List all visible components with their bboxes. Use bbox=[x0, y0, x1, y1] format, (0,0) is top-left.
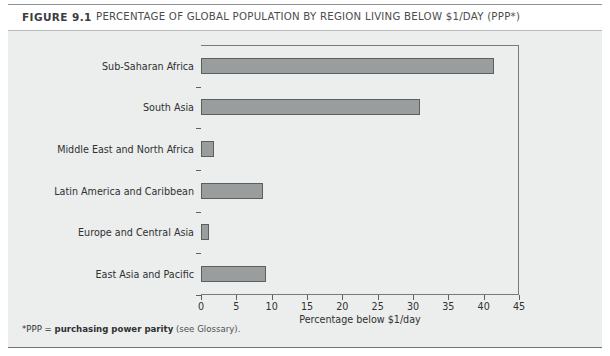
x-axis-tick bbox=[236, 295, 237, 300]
y-axis-category-label: South Asia bbox=[143, 102, 194, 113]
x-axis-tick-label: 20 bbox=[336, 301, 348, 312]
x-axis-tick bbox=[519, 295, 520, 300]
x-axis-tick bbox=[201, 295, 202, 300]
x-axis-tick-label: 30 bbox=[407, 301, 419, 312]
chart-bar bbox=[201, 183, 263, 199]
footnote-prefix: *PPP = bbox=[22, 324, 55, 334]
chart-bar bbox=[201, 141, 214, 157]
y-axis-category-label: East Asia and Pacific bbox=[96, 269, 195, 280]
footnote-suffix: (see Glossary). bbox=[173, 324, 240, 334]
x-axis-tick bbox=[484, 295, 485, 300]
x-axis-tick-label: 5 bbox=[233, 301, 239, 312]
chart-bar bbox=[201, 266, 266, 282]
x-axis-tick-label: 0 bbox=[198, 301, 204, 312]
chart-bar bbox=[201, 224, 209, 240]
y-axis-category-label: Sub-Saharan Africa bbox=[102, 60, 194, 71]
footnote-bold-term: purchasing power parity bbox=[55, 324, 174, 334]
x-axis-tick-label: 10 bbox=[266, 301, 278, 312]
chart-bar bbox=[201, 99, 420, 115]
y-axis-category-label: Europe and Central Asia bbox=[78, 227, 194, 238]
x-axis-tick-label: 45 bbox=[513, 301, 525, 312]
bar-row: Sub-Saharan Africa bbox=[201, 45, 519, 87]
chart-bar bbox=[201, 58, 494, 74]
x-axis-tick-label: 40 bbox=[478, 301, 490, 312]
x-axis-tick bbox=[307, 295, 308, 300]
x-axis-tick-label: 35 bbox=[442, 301, 454, 312]
figure-container: FIGURE 9.1 PERCENTAGE OF GLOBAL POPULATI… bbox=[8, 4, 602, 348]
bar-row: East Asia and Pacific bbox=[201, 253, 519, 295]
x-axis-tick-label: 25 bbox=[372, 301, 384, 312]
x-axis-tick bbox=[448, 295, 449, 300]
x-axis-tick bbox=[378, 295, 379, 300]
figure-title-bar: FIGURE 9.1 PERCENTAGE OF GLOBAL POPULATI… bbox=[8, 5, 602, 31]
x-axis-tick bbox=[413, 295, 414, 300]
y-axis-category-label: Middle East and North Africa bbox=[57, 144, 194, 155]
x-axis-tick bbox=[272, 295, 273, 300]
x-axis-tick-label: 15 bbox=[301, 301, 313, 312]
bar-row: Europe and Central Asia bbox=[201, 212, 519, 254]
x-axis-tick bbox=[342, 295, 343, 300]
bar-row: Middle East and North Africa bbox=[201, 128, 519, 170]
figure-footnote: *PPP = purchasing power parity (see Glos… bbox=[22, 324, 240, 334]
figure-number: FIGURE 9.1 bbox=[22, 11, 92, 23]
figure-title: PERCENTAGE OF GLOBAL POPULATION BY REGIO… bbox=[96, 11, 520, 22]
chart-plot-wrapper: Sub-Saharan AfricaSouth AsiaMiddle East … bbox=[8, 31, 602, 349]
x-axis-title: Percentage below $1/day bbox=[201, 314, 519, 325]
bar-row: Latin America and Caribbean bbox=[201, 170, 519, 212]
y-axis-category-label: Latin America and Caribbean bbox=[54, 185, 194, 196]
bar-row: South Asia bbox=[201, 87, 519, 129]
